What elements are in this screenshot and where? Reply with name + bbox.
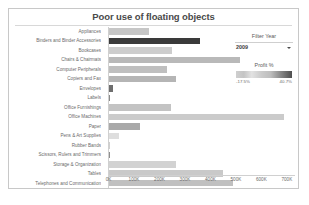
bar-mark[interactable] xyxy=(109,85,114,92)
bar-mark[interactable] xyxy=(109,95,110,102)
bar-row[interactable]: Rubber Bands xyxy=(9,141,298,150)
bar-category-label: Binders and Binder Accessories xyxy=(9,36,101,45)
value-axis-tick-label: 500K xyxy=(231,177,242,182)
bar-mark[interactable] xyxy=(109,114,285,121)
filter-year-card[interactable]: Filter Year 2009 xyxy=(233,33,295,56)
value-axis-tick-label: 300K xyxy=(180,177,191,182)
bar-category-label: Copiers and Fax xyxy=(9,74,101,83)
filter-divider xyxy=(235,42,293,43)
profit-legend-max-label: 40.7% xyxy=(280,79,292,84)
bar-category-label: Rubber Bands xyxy=(9,141,101,150)
bar-row[interactable]: Office Machines xyxy=(9,112,298,121)
value-axis-line xyxy=(108,175,295,176)
bar-mark[interactable] xyxy=(109,38,201,45)
bar-mark[interactable] xyxy=(109,47,173,54)
bar-category-label: Envelopes xyxy=(9,84,101,93)
title-divider xyxy=(15,25,292,26)
bar-row[interactable]: Scissors, Rulers and Trimmers xyxy=(9,150,298,159)
bar-mark[interactable] xyxy=(109,123,141,130)
bar-row[interactable]: Office Furnishings xyxy=(9,103,298,112)
bar-category-label: Pens & Art Supplies xyxy=(9,131,101,140)
bar-category-label: Labels xyxy=(9,93,101,102)
value-axis-tick-label: 700K xyxy=(281,177,292,182)
profit-legend-min-label: -17.5% xyxy=(236,79,250,84)
visualization-frame: Poor use of floating objects AppliancesB… xyxy=(8,8,299,189)
bar-category-label: Storage & Organization xyxy=(9,160,101,169)
bar-category-label: Appliances xyxy=(9,27,101,36)
profit-legend-ticks: -17.5% 40.7% xyxy=(233,79,295,86)
filter-year-title: Filter Year xyxy=(233,33,295,39)
bar-mark[interactable] xyxy=(109,28,150,35)
bar-row[interactable]: Pens & Art Supplies xyxy=(9,131,298,140)
bar-mark[interactable] xyxy=(109,76,177,83)
bar-category-label: Scissors, Rulers and Trimmers xyxy=(9,150,101,159)
bar-category-label: Office Furnishings xyxy=(9,103,101,112)
bar-row[interactable]: Labels xyxy=(9,93,298,102)
value-axis-tick-label: 100K xyxy=(129,177,140,182)
chevron-down-icon[interactable] xyxy=(287,47,291,49)
bar-category-label: Chairs & Chairmats xyxy=(9,55,101,64)
value-axis-tick-label: 400K xyxy=(205,177,216,182)
page-title: Poor use of floating objects xyxy=(9,11,298,22)
bar-category-label: Computer Peripherals xyxy=(9,65,101,74)
bar-mark[interactable] xyxy=(109,104,171,111)
bar-category-label: Paper xyxy=(9,122,101,131)
bar-mark[interactable] xyxy=(109,152,111,159)
bar-mark[interactable] xyxy=(109,142,110,149)
profit-legend-title: Profit % xyxy=(233,62,295,68)
bar-mark[interactable] xyxy=(109,57,240,64)
bar-mark[interactable] xyxy=(109,66,168,73)
bar-category-label: Bookcases xyxy=(9,46,101,55)
value-axis-tick-label: 0K xyxy=(106,177,112,182)
value-axis-tick-label: 200K xyxy=(154,177,165,182)
bar-row[interactable]: Storage & Organization xyxy=(9,160,298,169)
profit-legend-card: Profit % -17.5% 40.7% xyxy=(233,62,295,88)
bar-category-label: Office Machines xyxy=(9,112,101,121)
value-axis-tick-label: 600K xyxy=(256,177,267,182)
profit-color-ramp xyxy=(236,71,292,78)
bar-row[interactable]: Paper xyxy=(9,122,298,131)
value-axis: 0K100K200K300K400K500K600K700K xyxy=(9,175,298,188)
bar-mark[interactable] xyxy=(109,133,120,140)
filter-year-value[interactable]: 2009 xyxy=(236,44,248,50)
bar-mark[interactable] xyxy=(109,161,177,168)
